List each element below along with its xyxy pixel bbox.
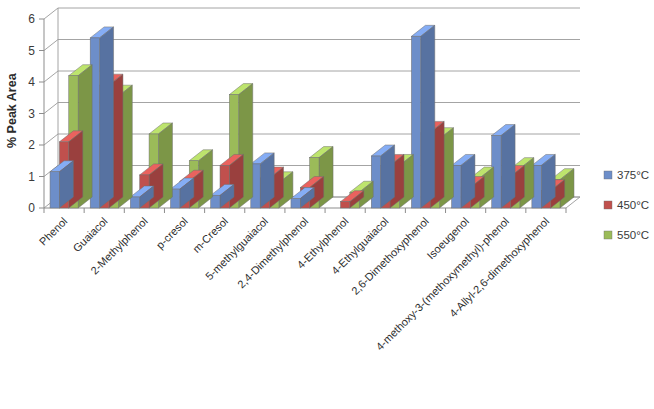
y-tick-label: 4 (28, 75, 35, 89)
bar (371, 145, 394, 208)
bar-side-face (100, 27, 114, 208)
bar-side-face (501, 125, 515, 208)
x-axis-label: p-cresol (154, 215, 190, 251)
bar-group (50, 65, 92, 208)
x-axis-label: 2,6-Dimethoxyphenol (349, 215, 431, 297)
bar-front-face (50, 172, 59, 208)
y-tick-label: 1 (28, 170, 35, 184)
bar-group (90, 27, 132, 208)
bar (532, 154, 555, 208)
x-axis-label: 2,4-Dimethylphenol (235, 215, 311, 291)
x-axis-label: Guaiacol (70, 215, 109, 254)
chart-canvas: 0123456% Peak AreaPhenolGuaiacol2-Methyl… (0, 0, 654, 409)
y-tick-label: 2 (28, 138, 35, 152)
bar-front-face (340, 202, 349, 208)
legend-swatch (604, 201, 612, 209)
bar-group (371, 145, 413, 208)
bar-side-face (381, 145, 395, 208)
bar (492, 125, 515, 208)
gridline-connector (44, 103, 58, 114)
bar-group (492, 125, 534, 208)
bar-chart: 0123456% Peak AreaPhenolGuaiacol2-Methyl… (0, 0, 654, 409)
bar (411, 25, 434, 208)
legend-label: 550°C (617, 229, 649, 241)
gridline-connector (44, 134, 58, 145)
y-tick-label: 3 (28, 107, 35, 121)
legend-swatch (604, 231, 612, 239)
bar-group (170, 150, 212, 208)
gridline-connector (44, 8, 58, 19)
y-tick-label: 5 (28, 44, 35, 58)
legend-label: 450°C (617, 199, 649, 211)
bar-front-face (130, 197, 139, 208)
y-tick-label: 0 (28, 201, 35, 215)
bar-side-face (421, 25, 435, 208)
gridline-connector (44, 40, 58, 51)
bar (452, 154, 475, 208)
bar (251, 153, 274, 208)
plot-area: 0123456% Peak Area (5, 8, 580, 215)
y-axis-title: % Peak Area (5, 72, 19, 148)
bar (90, 27, 113, 208)
bar-group (251, 153, 293, 208)
y-tick-label: 6 (28, 12, 35, 26)
bar-group (291, 147, 333, 208)
x-axis-label: Phenol (37, 215, 70, 248)
gridline-connector (44, 71, 58, 82)
bar-group (411, 25, 453, 208)
bar-group (340, 181, 373, 208)
x-axis-label: m-Cresol (190, 215, 230, 255)
legend-swatch (604, 171, 612, 179)
bar-front-face (291, 199, 300, 208)
bar-group (452, 154, 494, 208)
legend-label: 375°C (617, 169, 649, 181)
legend: 375°C450°C550°C (604, 169, 649, 241)
bar-group (532, 154, 574, 208)
x-axis-labels: PhenolGuaiacol2-Methylphenolp-cresolm-Cr… (37, 215, 552, 353)
